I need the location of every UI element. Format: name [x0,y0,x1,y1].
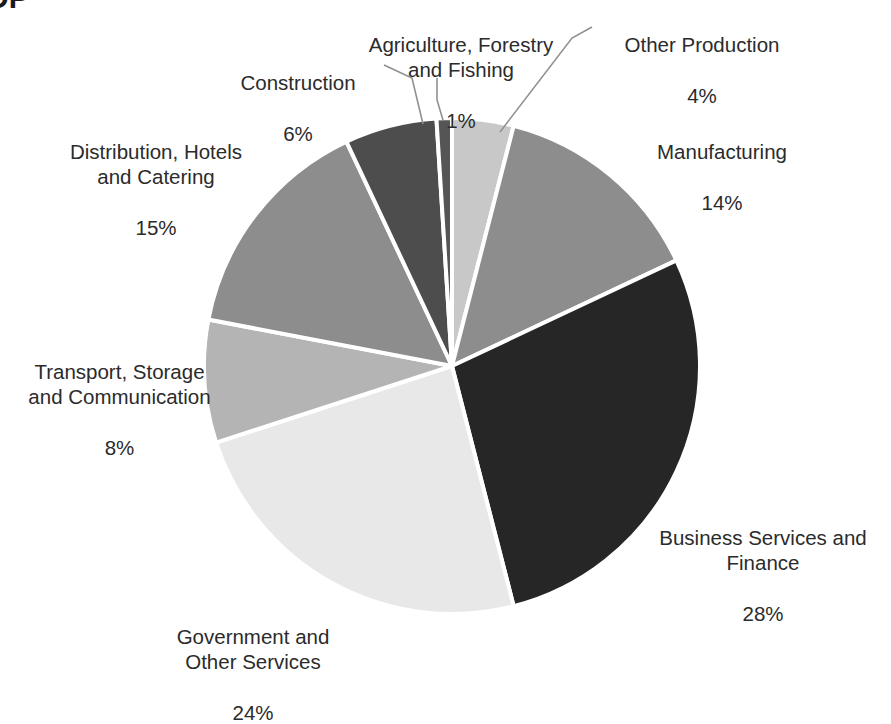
pie-label-business-services-name: Business Services and Finance [638,525,888,576]
pie-label-government-value: 24% [128,700,378,724]
pie-label-other-production-name: Other Production [596,32,808,58]
pie-label-business-services-value: 28% [638,601,888,627]
pie-label-manufacturing-name: Manufacturing [615,139,829,165]
pie-label-business-services: Business Services and Finance 28% [638,499,888,652]
pie-label-agriculture: Agriculture, Forestry and Fishing 1% [348,6,574,159]
pie-label-government-name: Government and Other Services [128,624,378,675]
pie-label-transport-value: 8% [2,435,237,461]
pie-label-manufacturing-value: 14% [615,190,829,216]
pie-label-government: Government and Other Services 24% [128,598,378,724]
pie-label-construction-name: Construction [215,70,381,96]
pie-label-other-production-value: 4% [596,83,808,109]
pie-label-manufacturing: Manufacturing 14% [615,113,829,241]
pie-label-transport: Transport, Storage and Communication 8% [2,333,237,486]
pie-label-distribution-name: Distribution, Hotels and Catering [30,139,282,190]
pie-label-distribution: Distribution, Hotels and Catering 15% [30,113,282,266]
pie-label-transport-name: Transport, Storage and Communication [2,359,237,410]
pie-label-agriculture-value: 1% [348,108,574,134]
pie-label-agriculture-name: Agriculture, Forestry and Fishing [348,32,574,83]
pie-label-distribution-value: 15% [30,215,282,241]
